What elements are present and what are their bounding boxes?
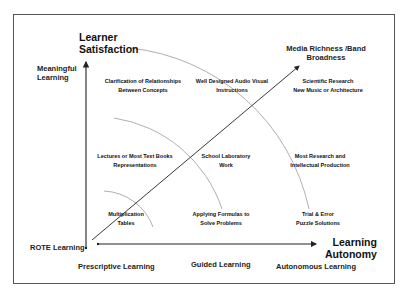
cell-top-left-line2: Between Concepts [102,86,185,95]
cell-bot-mid-line2: Solve Problems [189,219,253,228]
cell-bot-left: Multiplication Tables [108,210,145,228]
cell-bot-right: Trial & Error Puzzle Solutions [292,210,344,228]
y-axis-title: Learner Satisfaction [79,31,139,55]
x-axis-title: Learning Autonomy [325,236,377,260]
cell-top-right: Scientific Research New Music or Archite… [289,77,366,95]
y-level-top-line2: Learning [37,73,77,82]
diagonal-title-line2: Broadness [276,53,376,62]
cell-top-mid-line2: Instructions [193,86,270,95]
y-level-top-line1: Meaningful [37,64,77,73]
cell-bot-left-line2: Tables [108,219,145,228]
cell-mid-mid-line1: School Laboratory [198,152,253,161]
cell-mid-right-line1: Most Research and [283,152,357,161]
x-level-prescriptive: Prescriptive Learning [78,262,155,271]
cell-bot-right-line1: Trial & Error [292,210,344,219]
cell-bot-mid-line1: Applying Formulas to [189,210,253,219]
cell-top-left-line1: Clarification of Relationships [102,77,185,86]
y-level-bottom: ROTE Learning [30,243,85,252]
y-level-top: Meaningful Learning [37,64,77,82]
cell-top-right-line2: New Music or Architecture [289,86,366,95]
x-axis-title-line1: Learning [325,236,377,248]
cell-mid-right-line2: Intellectual Production [283,161,357,170]
cell-mid-mid: School Laboratory Work [198,152,253,170]
cell-top-mid-line1: Well Designed Audio Visual [193,77,270,86]
x-axis-title-line2: Autonomy [325,248,377,260]
diagonal-title-line1: Media Richness /Band [276,44,376,53]
cell-top-mid: Well Designed Audio Visual Instructions [193,77,270,95]
cell-mid-mid-line2: Work [198,161,253,170]
cell-mid-right: Most Research and Intellectual Productio… [283,152,357,170]
cell-bot-left-line1: Multiplication [108,210,145,219]
cell-top-right-line1: Scientific Research [289,77,366,86]
cell-mid-left-line1: Lectures or Most Text Books [96,152,173,161]
cell-bot-mid: Applying Formulas to Solve Problems [189,210,253,228]
cell-top-left: Clarification of Relationships Between C… [102,77,185,95]
cell-mid-left-line2: Representations [96,161,173,170]
y-axis-title-line1: Learner [79,31,139,43]
arc-outer [130,48,309,209]
cell-bot-right-line2: Puzzle Solutions [292,219,344,228]
x-level-guided: Guided Learning [191,260,251,269]
diagonal-axis-title: Media Richness /Band Broadness [276,44,376,62]
cell-mid-left: Lectures or Most Text Books Representati… [96,152,173,170]
x-level-autonomous: Autonomous Learning [276,262,356,271]
y-axis-title-line2: Satisfaction [79,43,139,55]
